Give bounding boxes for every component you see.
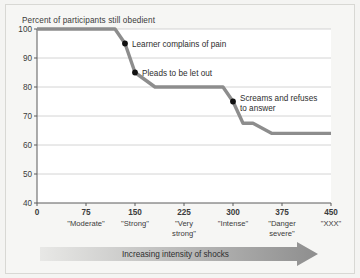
x-label-danger-severe-line2: severe" <box>269 229 295 238</box>
y-axis-labels: 100 90 80 70 60 50 40 <box>18 25 32 208</box>
x-label-very-strong-line1: "Very <box>175 219 193 228</box>
y-tick-80: 80 <box>23 83 33 92</box>
annotation-learner-complains: Learner complains of pain <box>132 40 227 49</box>
intensity-arrow <box>40 242 318 266</box>
x-axis-numbers: 0 75 150 225 300 375 450 <box>35 208 339 217</box>
x-tick-225: 225 <box>177 208 191 217</box>
x-label-xxx: "XXX" <box>321 219 342 228</box>
x-tick-0: 0 <box>35 208 40 217</box>
annotation-screams-line1: Screams and refuses <box>240 94 317 103</box>
y-tick-90: 90 <box>23 54 33 63</box>
x-tick-150: 150 <box>128 208 142 217</box>
x-label-moderate: "Moderate" <box>67 219 105 228</box>
y-tick-50: 50 <box>23 170 33 179</box>
annotation-screams-line2: to answer <box>240 104 276 113</box>
x-axis-category-labels: "Moderate" "Strong" "Very strong" "Inten… <box>67 219 341 238</box>
y-tick-40: 40 <box>23 199 33 208</box>
x-tick-375: 375 <box>275 208 289 217</box>
y-tick-60: 60 <box>23 141 33 150</box>
y-tick-100: 100 <box>18 25 32 34</box>
x-label-danger-severe-line1: "Danger <box>268 219 296 228</box>
x-label-strong: "Strong" <box>121 219 149 228</box>
x-label-intense: "Intense" <box>218 219 249 228</box>
x-tick-75: 75 <box>81 208 91 217</box>
x-tick-300: 300 <box>226 208 240 217</box>
marker-pleads-to-be-let-out <box>132 70 138 76</box>
marker-screams-and-refuses <box>230 99 236 105</box>
y-tick-70: 70 <box>23 112 33 121</box>
x-tick-450: 450 <box>324 208 338 217</box>
x-label-very-strong-line2: strong" <box>172 229 196 238</box>
obedience-line-chart: 100 90 80 70 60 50 40 0 75 150 225 300 3… <box>0 0 360 278</box>
annotation-pleads-let-out: Pleads to be let out <box>142 69 213 78</box>
figure-container: Percent of participants still obedient <box>0 0 360 278</box>
marker-learner-complains <box>122 41 128 47</box>
